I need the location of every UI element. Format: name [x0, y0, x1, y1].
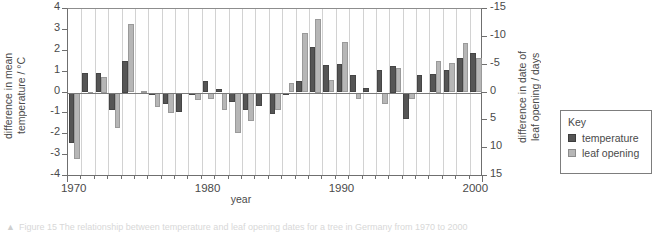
y2-tick-label-10: 10 — [490, 139, 520, 151]
x-tick-label-1990: 1990 — [318, 182, 364, 194]
y2-tick-mark — [482, 92, 487, 93]
bar-temperature-1984 — [256, 93, 262, 107]
caption-marker-icon: ▲ — [6, 222, 15, 232]
bar-leaf-opening-1973 — [115, 93, 121, 128]
bar-temperature-1993 — [377, 70, 383, 93]
x-tick-mark — [241, 175, 242, 179]
y2-tick-label--5: -5 — [490, 56, 520, 68]
bar-temperature-1971 — [82, 73, 88, 93]
legend-title: Key — [568, 116, 651, 128]
bar-leaf-opening-1972 — [101, 77, 107, 93]
temperature-swatch-icon — [568, 134, 576, 142]
bar-leaf-opening-1997 — [436, 61, 442, 92]
x-tick-mark — [308, 175, 309, 179]
x-tick-mark — [94, 175, 95, 179]
bar-leaf-opening-1981 — [222, 93, 228, 111]
bar-leaf-opening-1999 — [463, 43, 469, 92]
x-tick-mark — [201, 175, 202, 179]
x-tick-label-2000: 2000 — [452, 182, 498, 194]
y-tick-label--1: -1 — [34, 104, 60, 116]
y-tick-label-2: 2 — [34, 42, 60, 54]
x-tick-mark — [335, 175, 336, 179]
bar-leaf-opening-1974 — [128, 24, 134, 93]
bar-temperature-1980 — [203, 81, 209, 92]
x-tick-label-1980: 1980 — [185, 182, 231, 194]
y-tick-label--3: -3 — [34, 146, 60, 158]
x-axis-line — [67, 175, 482, 176]
y-tick-label-0: 0 — [34, 84, 60, 96]
x-tick-mark — [362, 175, 363, 179]
y2-tick-mark — [482, 147, 487, 148]
bar-leaf-opening-1986 — [289, 83, 295, 92]
y2-tick-label--15: -15 — [490, 0, 520, 12]
bar-leaf-opening-2000 — [476, 58, 482, 92]
bar-leaf-opening-1976 — [155, 93, 161, 108]
leaf-opening-swatch-icon — [568, 149, 576, 157]
legend-item-temperature: temperature — [568, 132, 651, 144]
y2-tick-label--10: -10 — [490, 28, 520, 40]
figure-caption: ▲Figure 15 The relationship between temp… — [6, 222, 651, 232]
x-tick-mark — [80, 175, 81, 179]
x-tick-mark — [482, 175, 483, 182]
y2-tick-label-5: 5 — [490, 111, 520, 123]
x-tick-mark — [428, 175, 429, 179]
y2-tick-mark — [482, 8, 487, 9]
x-tick-mark — [455, 175, 456, 179]
y2-tick-mark — [482, 119, 487, 120]
bar-leaf-opening-1994 — [396, 68, 402, 92]
bar-leaf-opening-1970 — [74, 93, 80, 160]
bar-leaf-opening-1987 — [302, 33, 308, 92]
x-tick-mark — [67, 175, 68, 182]
x-axis-title: year — [0, 193, 482, 205]
zero-baseline — [68, 93, 481, 94]
bar-leaf-opening-1985 — [275, 93, 281, 111]
figure-container: difference in mean temperature / °C diff… — [0, 0, 657, 232]
y-tick-label-3: 3 — [34, 21, 60, 33]
x-tick-mark — [161, 175, 162, 179]
bar-leaf-opening-1977 — [168, 93, 174, 114]
x-tick-mark — [107, 175, 108, 179]
y-tick-label--4: -4 — [34, 167, 60, 179]
legend-label-temperature: temperature — [582, 132, 639, 144]
y-tick-label-4: 4 — [34, 0, 60, 12]
y-tick-label--2: -2 — [34, 125, 60, 137]
bar-leaf-opening-1979 — [195, 93, 201, 100]
x-tick-mark — [254, 175, 255, 179]
x-tick-mark — [375, 175, 376, 179]
bar-temperature-1978 — [176, 93, 182, 113]
legend-label-leaf-opening: leaf opening — [582, 147, 639, 159]
x-tick-mark — [402, 175, 403, 179]
bar-leaf-opening-1998 — [449, 63, 455, 92]
bar-temperature-1996 — [417, 75, 423, 93]
legend-item-leaf-opening: leaf opening — [568, 147, 651, 159]
bar-leaf-opening-1993 — [382, 93, 388, 104]
x-tick-mark — [228, 175, 229, 179]
y-tick-label-1: 1 — [34, 63, 60, 75]
y2-tick-mark — [482, 64, 487, 65]
x-tick-mark — [295, 175, 296, 179]
bar-leaf-opening-1982 — [235, 93, 241, 134]
x-tick-mark — [348, 175, 349, 179]
bar-leaf-opening-1989 — [329, 80, 335, 93]
x-tick-mark — [469, 175, 470, 179]
x-tick-mark — [214, 175, 215, 179]
y2-tick-label-0: 0 — [490, 84, 520, 96]
x-tick-mark — [442, 175, 443, 179]
y2-tick-mark — [482, 36, 487, 37]
x-tick-mark — [268, 175, 269, 179]
x-tick-mark — [174, 175, 175, 179]
legend-key: Key temperature leaf opening — [560, 110, 652, 174]
x-tick-mark — [321, 175, 322, 179]
x-tick-mark — [415, 175, 416, 179]
x-tick-mark — [147, 175, 148, 179]
x-tick-mark — [134, 175, 135, 179]
x-tick-mark — [121, 175, 122, 179]
y2-tick-label-15: 15 — [490, 167, 520, 179]
bar-leaf-opening-1983 — [248, 93, 254, 121]
x-tick-mark — [281, 175, 282, 179]
x-tick-mark — [388, 175, 389, 179]
x-tick-label-1970: 1970 — [51, 182, 97, 194]
caption-text: Figure 15 The relationship between tempe… — [19, 222, 468, 232]
plot-area — [67, 8, 482, 175]
bar-leaf-opening-1990 — [342, 42, 348, 92]
